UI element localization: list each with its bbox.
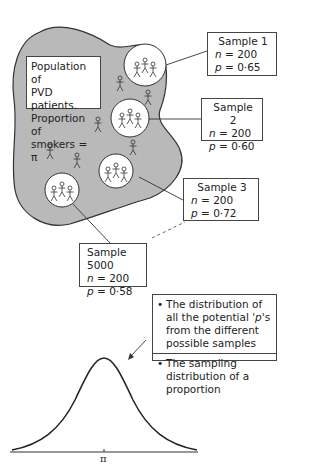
p-value: = 0·72 bbox=[198, 207, 237, 219]
n-value: = 200 bbox=[222, 48, 258, 60]
sample-p: p = 0·60 bbox=[209, 140, 257, 153]
note-text: The distribution of all the potential 'p… bbox=[166, 298, 272, 350]
note-text-part: The distribution of all the potential ' bbox=[166, 298, 262, 323]
n-value: = 200 bbox=[216, 127, 252, 139]
pointer-arrow bbox=[128, 340, 146, 360]
n-value: = 200 bbox=[94, 272, 130, 284]
sample-p: p = 0·58 bbox=[87, 285, 141, 298]
p-symbol: p bbox=[215, 61, 222, 73]
bullet-icon: • bbox=[157, 357, 166, 396]
sample-n: n = 200 bbox=[87, 272, 141, 285]
population-line: Proportion of bbox=[31, 112, 96, 138]
n-value: = 200 bbox=[198, 194, 234, 206]
sample-5000-box: Sample 5000 n = 200 p = 0·58 bbox=[79, 243, 147, 287]
n-symbol: n bbox=[215, 48, 222, 60]
p-value: = 0·65 bbox=[222, 61, 261, 73]
sample-n: n = 200 bbox=[215, 48, 271, 61]
note-text: The sampling distribution of a proportio… bbox=[166, 357, 272, 396]
n-symbol: n bbox=[209, 127, 216, 139]
sample-title: Sample 1 bbox=[215, 35, 271, 48]
note-italic: p bbox=[255, 311, 262, 323]
p-value: = 0·58 bbox=[94, 285, 133, 297]
p-symbol: p bbox=[209, 140, 216, 152]
p-symbol: p bbox=[87, 285, 94, 297]
n-symbol: n bbox=[87, 272, 94, 284]
sample-p: p = 0·65 bbox=[215, 61, 271, 74]
sample-n: n = 200 bbox=[209, 127, 257, 140]
sample-n: n = 200 bbox=[191, 194, 253, 207]
bullet-icon: • bbox=[157, 298, 166, 350]
sample-title: Sample 3 bbox=[191, 181, 253, 194]
population-line: smokers = π bbox=[31, 138, 96, 164]
sample-title: Sample 5000 bbox=[87, 246, 141, 272]
p-symbol: p bbox=[191, 207, 198, 219]
sample-p: p = 0·72 bbox=[191, 207, 253, 220]
population-line: Population of bbox=[31, 60, 96, 86]
sample-1-box: Sample 1 n = 200 p = 0·65 bbox=[207, 32, 277, 76]
n-symbol: n bbox=[191, 194, 198, 206]
population-label-box: Population of PVD patients. Proportion o… bbox=[26, 56, 101, 109]
sample-3-box: Sample 3 n = 200 p = 0·72 bbox=[183, 178, 259, 221]
pi-axis-label: π bbox=[100, 453, 107, 464]
distribution-notes-box: • The distribution of all the potential … bbox=[152, 294, 277, 361]
connector-sample-1 bbox=[166, 51, 207, 65]
sample-2-box: Sample 2 n = 200 p = 0·60 bbox=[201, 98, 263, 141]
note-item: • The distribution of all the potential … bbox=[153, 295, 276, 353]
dashed-ellipsis-line bbox=[152, 222, 185, 238]
note-item: • The sampling distribution of a proport… bbox=[153, 353, 276, 399]
population-line: PVD patients. bbox=[31, 86, 96, 112]
sample-title: Sample 2 bbox=[209, 101, 257, 127]
p-value: = 0·60 bbox=[216, 140, 255, 152]
